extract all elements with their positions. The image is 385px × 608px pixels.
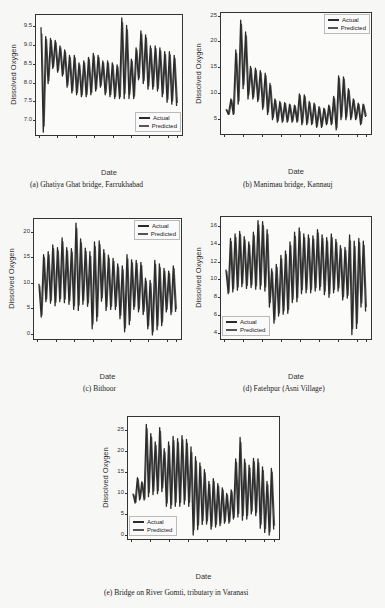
x-tick-mark — [338, 340, 339, 342]
x-tick-mark — [319, 135, 320, 137]
y-tick-label: 15 — [16, 253, 30, 259]
legend-label: Actual — [153, 115, 170, 121]
x-tick-mark — [226, 540, 227, 542]
x-tick-mark — [264, 540, 265, 542]
y-tick-mark — [125, 493, 127, 494]
x-axis-label: Date — [288, 167, 304, 176]
x-tick-mark — [169, 540, 170, 542]
x-tick-mark — [93, 340, 94, 342]
y-tick-mark — [31, 334, 33, 335]
y-tick-mark — [125, 535, 127, 536]
y-tick-label: 20 — [203, 37, 217, 43]
y-tick-mark — [218, 333, 220, 334]
x-tick-mark — [76, 136, 77, 138]
x-axis-label: Date — [101, 168, 117, 177]
x-tick-mark — [167, 340, 168, 342]
x-axis-label: Date — [100, 372, 116, 381]
y-tick-mark — [33, 64, 35, 65]
y-tick-label: 0 — [16, 330, 30, 336]
legend-label: Predicted — [240, 327, 265, 333]
legend-label: Actual — [147, 519, 164, 525]
legend-label: Predicted — [147, 527, 172, 533]
x-tick-mark — [39, 136, 40, 138]
x-tick-mark — [357, 135, 358, 137]
y-tick-mark — [218, 297, 220, 298]
x-axis-label: Date — [196, 572, 212, 581]
x-tick-mark — [130, 340, 131, 342]
figure-caption: (d) Fatehpur (Asni Village) — [243, 384, 325, 393]
x-tick-mark — [338, 135, 339, 137]
x-tick-mark — [224, 340, 225, 342]
legend-swatch-icon — [139, 125, 149, 127]
legend-entry: Actual — [226, 318, 266, 326]
y-tick-mark — [218, 279, 220, 280]
y-axis-label: Dissolved Oxygen — [101, 438, 110, 518]
y-tick-mark — [125, 514, 127, 515]
chart-legend: ActualPredicted — [129, 516, 177, 536]
y-tick-label: 6 — [203, 311, 217, 317]
y-tick-label: 15 — [110, 468, 124, 474]
x-tick-mark — [274, 540, 275, 542]
y-tick-mark — [218, 119, 220, 120]
y-tick-mark — [125, 451, 127, 452]
y-tick-mark — [33, 120, 35, 121]
legend-swatch-icon — [133, 521, 144, 523]
y-axis-label: Dissolved Oxygen — [194, 238, 203, 318]
legend-label: Actual — [240, 319, 257, 325]
x-tick-mark — [319, 340, 320, 342]
legend-swatch-icon — [226, 321, 237, 323]
x-tick-mark — [113, 136, 114, 138]
legend-entry: Predicted — [133, 526, 173, 534]
x-tick-mark — [262, 135, 263, 137]
legend-entry: Predicted — [139, 122, 177, 130]
x-tick-mark — [56, 340, 57, 342]
y-tick-mark — [218, 93, 220, 94]
x-tick-mark — [243, 340, 244, 342]
legend-swatch-icon — [138, 225, 149, 227]
x-tick-mark — [94, 136, 95, 138]
x-tick-mark — [176, 340, 177, 342]
legend-label: Actual — [342, 17, 359, 23]
x-tick-mark — [57, 136, 58, 138]
y-tick-mark — [218, 262, 220, 263]
legend-swatch-icon — [226, 329, 237, 331]
legend-label: Predicted — [341, 25, 366, 31]
x-tick-mark — [188, 540, 189, 542]
legend-swatch-icon — [139, 117, 150, 119]
x-tick-mark — [366, 135, 367, 137]
x-tick-mark — [149, 136, 150, 138]
y-tick-mark — [33, 83, 35, 84]
y-tick-mark — [218, 16, 220, 17]
y-tick-mark — [33, 45, 35, 46]
figure-caption: (a) Ghatiya Ghat bridge, Farrukhabad — [30, 180, 143, 189]
y-tick-label: 8.5 — [18, 60, 32, 66]
chart-legend: ActualPredicted — [324, 14, 370, 34]
y-tick-mark — [218, 244, 220, 245]
y-tick-label: 5 — [16, 304, 30, 310]
legend-entry: Actual — [133, 518, 173, 526]
x-tick-mark — [281, 135, 282, 137]
y-tick-mark — [218, 315, 220, 316]
x-tick-mark — [224, 135, 225, 137]
x-tick-mark — [357, 340, 358, 342]
y-tick-label: 12 — [203, 258, 217, 264]
figure-caption: (c) Bithoor — [83, 384, 116, 393]
y-tick-label: 4 — [203, 329, 217, 335]
y-tick-label: 16 — [203, 222, 217, 228]
x-tick-mark — [243, 135, 244, 137]
x-tick-mark — [207, 540, 208, 542]
y-tick-mark — [218, 41, 220, 42]
chart-legend: ActualPredicted — [222, 316, 270, 336]
legend-label: Actual — [152, 223, 169, 229]
figure-caption: (e) Bridge on River Gomti, tributary in … — [104, 588, 248, 597]
x-tick-mark — [245, 540, 246, 542]
y-tick-label: 25 — [203, 12, 217, 18]
x-tick-mark — [131, 540, 132, 542]
x-tick-mark — [300, 135, 301, 137]
y-tick-mark — [31, 232, 33, 233]
figure-caption: (b) Manimau bridge, Kannauj — [243, 180, 333, 189]
legend-label: Predicted — [152, 123, 177, 129]
y-tick-mark — [218, 226, 220, 227]
x-tick-mark — [281, 340, 282, 342]
y-tick-label: 10 — [110, 489, 124, 495]
